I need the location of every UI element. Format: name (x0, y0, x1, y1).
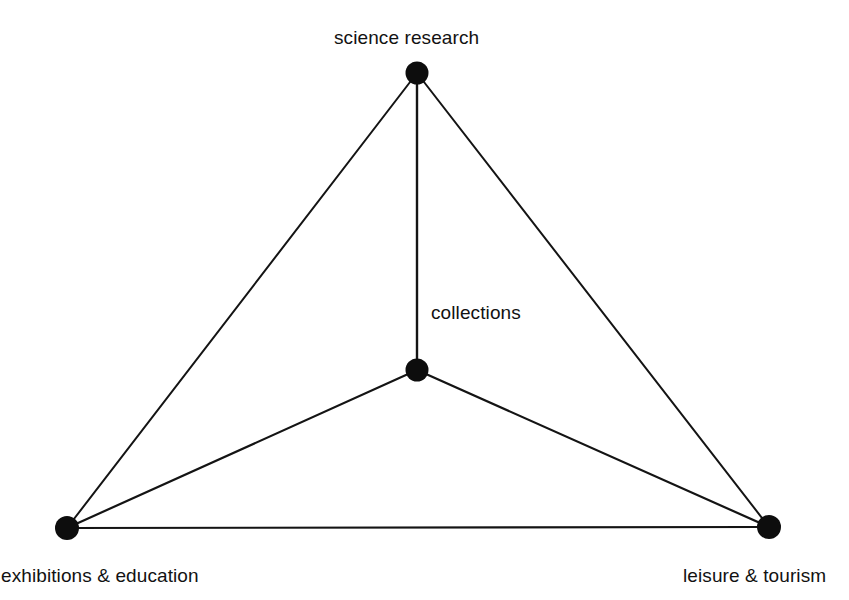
diagram-canvas (0, 0, 849, 600)
edge-science-research-to-leisure-tourism (417, 73, 769, 527)
node-label-collections: collections (431, 303, 521, 323)
node-label-exhibitions-education: exhibitions & education (1, 566, 199, 586)
edge-exhibitions-education-to-leisure-tourism (67, 527, 769, 528)
node-exhibitions-education[interactable] (55, 516, 79, 540)
node-science-research[interactable] (406, 62, 429, 85)
edge-collections-to-leisure-tourism (417, 370, 769, 527)
node-collections[interactable] (406, 359, 429, 382)
node-leisure-tourism[interactable] (757, 515, 781, 539)
edge-collections-to-exhibitions-education (67, 370, 417, 528)
node-label-science-research: science research (334, 28, 479, 48)
edge-science-research-to-exhibitions-education (67, 73, 417, 528)
node-label-leisure-tourism: leisure & tourism (683, 566, 826, 586)
